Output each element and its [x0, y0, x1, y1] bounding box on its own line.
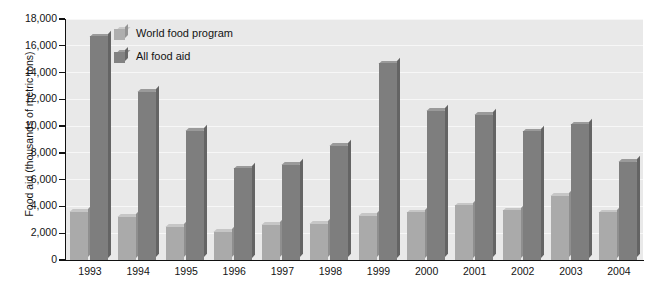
- bar-2002-all-food-aid: [523, 131, 541, 260]
- bar-1997-world-food-program: [262, 225, 280, 260]
- bar-2000-world-food-program: [407, 212, 425, 260]
- legend-swatch-icon-world-food-program: [114, 27, 127, 40]
- x-axis-tick-label-2002: 2002: [499, 265, 547, 277]
- y-axis-tick-label: 16,000: [3, 39, 57, 51]
- chart-legend: World food program All food aid: [114, 23, 314, 69]
- bar-2001-all-food-aid: [475, 115, 493, 260]
- gridline: [66, 72, 643, 73]
- bar-1996-world-food-program: [214, 232, 232, 260]
- x-axis-tick-label-1998: 1998: [306, 265, 354, 277]
- legend-label-all-food-aid: All food aid: [136, 50, 190, 62]
- y-axis-tick-label: 2,000: [3, 226, 57, 238]
- bar-1998-world-food-program: [310, 224, 328, 260]
- y-axis-tick-label: 12,000: [3, 92, 57, 104]
- y-axis-tick-label: 14,000: [3, 66, 57, 78]
- y-axis-tick-label: 10,000: [3, 119, 57, 131]
- bar-2003-all-food-aid: [571, 124, 589, 260]
- bar-1993-world-food-program: [70, 212, 88, 260]
- y-axis-tick-label: 0: [3, 253, 57, 265]
- x-axis-tick-label-2001: 2001: [451, 265, 499, 277]
- bar-1996-all-food-aid: [234, 168, 252, 260]
- bar-1995-world-food-program: [166, 227, 184, 260]
- y-axis-tick: [59, 259, 65, 260]
- bar-2002-world-food-program: [503, 210, 521, 260]
- bar-1994-world-food-program: [118, 217, 136, 261]
- y-axis-tick: [59, 179, 65, 180]
- y-axis-tick: [59, 18, 65, 19]
- legend-item-world-food-program: World food program: [114, 23, 314, 43]
- y-axis-tick: [59, 152, 65, 153]
- bar-1998-all-food-aid: [330, 146, 348, 260]
- x-axis-tick-label-1994: 1994: [114, 265, 162, 277]
- bar-1997-all-food-aid: [282, 165, 300, 260]
- bar-1993-all-food-aid: [90, 36, 108, 260]
- bar-2004-all-food-aid: [619, 162, 637, 260]
- x-axis-tick-label-1996: 1996: [210, 265, 258, 277]
- bar-2004-world-food-program: [599, 212, 617, 260]
- y-axis-tick-label: 4,000: [3, 199, 57, 211]
- x-axis-tick-label-1995: 1995: [162, 265, 210, 277]
- x-axis-tick-label-2004: 2004: [595, 265, 643, 277]
- y-axis-tick-labels: 02,0004,0006,0008,00010,00012,00014,0001…: [0, 0, 57, 286]
- y-axis-tick-label: 8,000: [3, 146, 57, 158]
- bar-1999-all-food-aid: [379, 63, 397, 260]
- x-axis-tick-label-1999: 1999: [355, 265, 403, 277]
- x-axis-tick-label-1997: 1997: [258, 265, 306, 277]
- legend-label-world-food-program: World food program: [136, 27, 233, 39]
- x-axis-tick-label-2003: 2003: [547, 265, 595, 277]
- y-axis-tick: [59, 206, 65, 207]
- bar-2000-all-food-aid: [427, 111, 445, 260]
- y-axis-tick: [59, 72, 65, 73]
- y-axis-tick: [59, 45, 65, 46]
- bar-1994-all-food-aid: [138, 92, 156, 260]
- bar-2003-world-food-program: [551, 196, 569, 260]
- y-axis-tick: [59, 125, 65, 126]
- bar-chart: Food aid (thousands of metric tons) 02,0…: [0, 0, 653, 286]
- legend-item-all-food-aid: All food aid: [114, 46, 314, 66]
- y-axis-line: [65, 19, 66, 261]
- y-axis-tick-label: 6,000: [3, 173, 57, 185]
- bar-1999-world-food-program: [359, 216, 377, 260]
- bar-2001-world-food-program: [455, 205, 473, 260]
- legend-swatch-icon-all-food-aid: [114, 50, 127, 63]
- bar-1995-all-food-aid: [186, 131, 204, 260]
- x-axis-tick-label-1993: 1993: [66, 265, 114, 277]
- y-axis-tick-label: 18,000: [3, 12, 57, 24]
- y-axis-tick: [59, 233, 65, 234]
- x-axis-line: [65, 260, 644, 261]
- x-axis-tick-labels: 1993199419951996199719981999200020012002…: [66, 265, 643, 283]
- x-axis-tick-label-2000: 2000: [403, 265, 451, 277]
- y-axis-tick: [59, 99, 65, 100]
- gridline: [66, 19, 643, 20]
